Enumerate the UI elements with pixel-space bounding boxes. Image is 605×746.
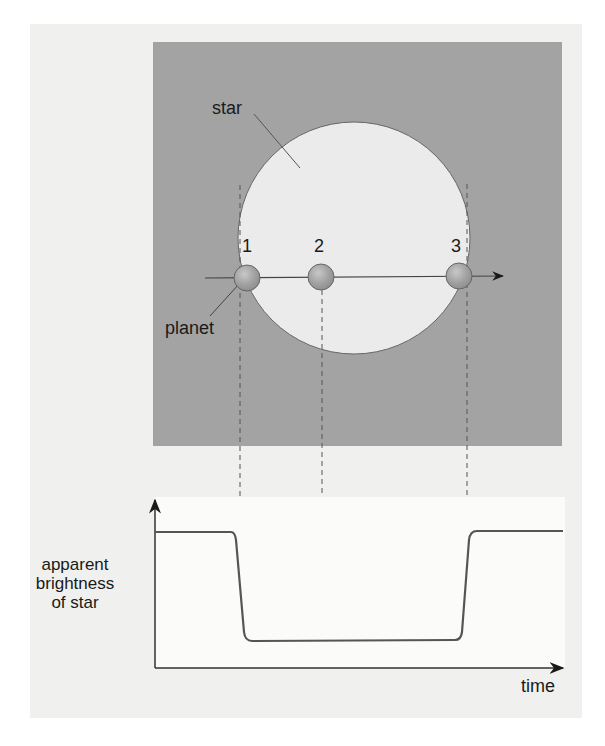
position-label-3: 3 — [451, 236, 461, 257]
planet-position-1 — [234, 265, 260, 291]
x-axis-label: time — [521, 676, 555, 697]
planet-position-2 — [308, 264, 334, 290]
planet-position-3 — [446, 263, 472, 289]
planet-label: planet — [165, 318, 214, 339]
star-disk — [238, 122, 470, 354]
chart-area — [155, 497, 565, 668]
position-label-2: 2 — [314, 236, 324, 257]
position-label-1: 1 — [242, 236, 252, 257]
transit-diagram — [0, 0, 605, 746]
y-axis-label: apparentbrightnessof star — [0, 555, 150, 612]
star-label: star — [212, 98, 242, 119]
